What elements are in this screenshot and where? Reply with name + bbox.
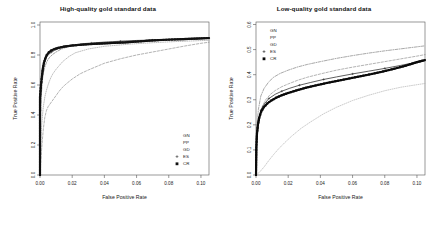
series-marker-cr [39,169,41,171]
series-marker-cr [255,166,257,168]
series-marker-cr [278,95,280,97]
series-marker-cr [193,38,195,40]
series-marker-cr [122,41,124,43]
series-marker-cr [399,66,401,68]
series-marker-cr [39,164,41,166]
series-marker-cr [39,114,41,116]
series-marker-cr [114,42,116,44]
series-marker-cr [391,68,393,70]
series-marker-cr [39,158,41,160]
series-marker-cr [362,75,364,77]
series-marker-cr [78,44,80,46]
series-marker-cr [255,159,257,161]
series-marker-cr [72,44,74,46]
series-marker-cr [75,44,77,46]
y-tick-label: 0.4 [31,111,36,118]
series-marker-cr [40,81,42,83]
series-marker-cr [99,43,101,45]
series-marker-cr [371,73,373,75]
x-tick-label: 0.10 [196,181,205,186]
series-marker-cr [93,43,95,45]
series-marker-cr [256,135,258,137]
series-marker-cr [379,71,381,73]
series-marker-cr [154,39,156,41]
series-line-cr [256,60,425,175]
series-marker-cr [396,67,398,69]
series-marker-cr [162,39,164,41]
series-marker-cr [261,108,263,110]
series-marker-cr [43,60,45,62]
series-marker-cr [179,38,181,40]
series-marker-cr [39,145,41,147]
series-marker-cr [40,87,42,89]
series-marker-cr [281,94,283,96]
series-marker-cr [351,77,353,79]
series-marker-cr [360,75,362,77]
series-marker-cr [168,39,170,41]
series-marker-cr [411,62,413,64]
series-marker-cr [188,38,190,40]
series-marker-es [323,78,325,80]
series-marker-cr [264,104,266,106]
series-marker-cr [55,47,57,49]
series-marker-cr [357,76,359,78]
series-marker-cr [300,88,302,90]
y-tick-label: 0.6 [31,81,36,88]
series-marker-cr [39,127,41,129]
series-marker-cr [343,79,345,81]
series-marker-cr [326,82,328,84]
series-marker-cr [419,60,421,62]
series-marker-cr [41,73,43,75]
series-marker-cr [171,39,173,41]
series-marker-cr [298,89,300,91]
series-line-es [257,60,425,137]
series-marker-cr [42,70,44,72]
x-tick-label: 0.06 [132,181,141,186]
series-marker-cr [39,161,41,163]
series-marker-cr [129,41,131,43]
legend-label-gn: GN [270,28,277,33]
legend-label-gd: GD [183,147,190,152]
series-line-gd [256,46,425,175]
x-tick-label: 0.00 [252,181,261,186]
series-marker-cr [409,63,411,65]
series-marker-cr [340,79,342,81]
legend-label-cr: CR [183,161,189,166]
legend-marker-es [263,50,266,53]
series-marker-cr [174,38,176,40]
series-marker-cr [53,48,55,50]
y-tick-label: 0.0 [31,171,36,178]
y-tick-label: 0.0 [247,171,252,178]
series-marker-cr [266,102,268,104]
legend-marker-es [176,155,179,158]
series-marker-cr [307,86,309,88]
legend-marker-cr [176,162,179,165]
series-marker-cr [421,60,423,62]
series-marker-cr [140,40,142,42]
series-marker-cr [317,84,319,86]
series-marker-cr [65,45,67,47]
series-marker-cr [127,41,129,43]
series-marker-cr [374,72,376,74]
series-marker-cr [39,112,41,114]
x-tick-label: 0.00 [36,181,45,186]
series-marker-cr [39,140,41,142]
series-marker-cr [320,83,322,85]
series-marker-es [298,84,300,86]
series-marker-cr [348,77,350,79]
x-axis-title: False Positive Rate [318,194,363,200]
series-marker-cr [331,81,333,83]
series-marker-cr [40,84,42,86]
series-marker-cr [90,43,92,45]
series-marker-cr [295,89,297,91]
series-marker-cr [41,75,43,77]
series-marker-cr [257,127,259,129]
series-marker-cr [402,65,404,67]
series-marker-cr [196,37,198,39]
y-tick-label: 1.0 [31,21,36,28]
series-marker-cr [414,62,416,64]
series-marker-cr [48,51,50,53]
series-marker-cr [57,47,59,49]
series-marker-cr [259,114,261,116]
y-tick-label: 0.4 [247,71,252,78]
